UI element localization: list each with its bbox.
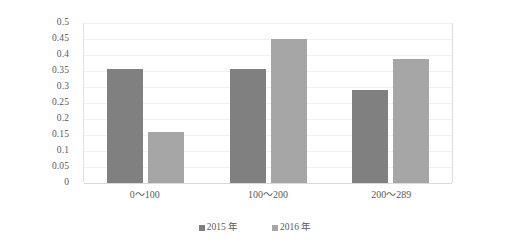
- axis-baseline: [84, 183, 452, 184]
- y-axis-tick-label: 0.2: [57, 114, 69, 124]
- x-axis-tick-label: 0～100: [83, 186, 206, 204]
- x-axis-tick-label: 200～289: [330, 186, 453, 204]
- legend-item[interactable]: 2016 年: [272, 223, 311, 233]
- x-axis-categories: 0～100100～200200～289: [83, 186, 453, 204]
- bar[interactable]: [352, 90, 388, 183]
- plot-area-wrapper: [83, 23, 453, 183]
- bar[interactable]: [271, 39, 307, 183]
- legend-label: 2016 年: [280, 223, 311, 233]
- y-axis-tick-label: 0.5: [57, 18, 69, 28]
- bar[interactable]: [230, 69, 266, 183]
- y-axis-tick-label: 0: [64, 178, 69, 188]
- y-axis-tick-label: 0.05: [52, 162, 69, 172]
- y-axis-tick-label: 0.15: [52, 130, 69, 140]
- x-axis-tick-label: 100～200: [206, 186, 329, 204]
- y-axis: 0.50.450.40.350.30.250.20.150.10.050: [0, 23, 75, 183]
- bar[interactable]: [148, 132, 184, 183]
- bar-group: [207, 23, 330, 183]
- bar-group: [329, 23, 452, 183]
- legend-item[interactable]: 2015 年: [199, 223, 238, 233]
- square-marker-icon: [272, 225, 278, 231]
- bar[interactable]: [107, 69, 143, 183]
- y-axis-tick-label: 0.1: [57, 146, 69, 156]
- plot-area: [83, 23, 453, 183]
- y-axis-tick-label: 0.25: [52, 98, 69, 108]
- bar-group: [84, 23, 207, 183]
- square-marker-icon: [199, 225, 205, 231]
- y-axis-tick-label: 0.35: [52, 66, 69, 76]
- y-axis-tick-label: 0.45: [52, 34, 69, 44]
- legend-label: 2015 年: [207, 223, 238, 233]
- bar-chart: 0.50.450.40.350.30.250.20.150.10.050 0～1…: [0, 0, 510, 249]
- y-axis-tick-label: 0.3: [57, 82, 69, 92]
- chart-legend: 2015 年2016 年: [0, 219, 510, 237]
- bar[interactable]: [393, 59, 429, 183]
- y-axis-tick-label: 0.4: [57, 50, 69, 60]
- bar-groups: [84, 23, 452, 183]
